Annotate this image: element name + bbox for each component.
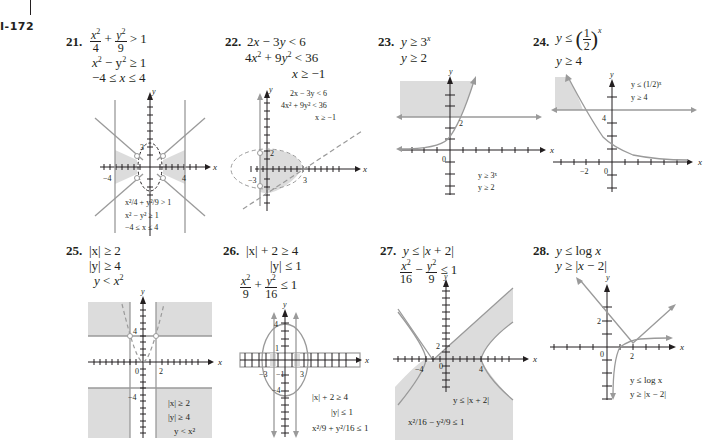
graph-24: y x 4 −2 0 y ≤ (1/2)ˣ y ≥ 4 xyxy=(553,75,703,195)
legend-line: |y| ≥ 4 xyxy=(168,412,191,422)
legend-line: x² − y² ≥ 1 xyxy=(125,211,159,220)
svg-text:y: y xyxy=(140,287,145,296)
svg-text:−4: −4 xyxy=(272,386,281,395)
svg-text:4: 4 xyxy=(133,327,137,336)
legend-line: y ≥ |x − 2| xyxy=(630,389,666,399)
svg-text:0: 0 xyxy=(600,350,604,359)
equation-line-1: y ≤ log x xyxy=(556,243,601,259)
problem-number: 21. xyxy=(66,34,82,50)
svg-text:2: 2 xyxy=(159,367,163,376)
axis-y-label: y xyxy=(444,272,448,281)
svg-text:x: x xyxy=(362,164,367,174)
svg-text:1: 1 xyxy=(275,344,279,353)
legend-line: x²/16 − y²/9 ≤ 1 xyxy=(408,417,464,427)
svg-text:0: 0 xyxy=(442,155,446,164)
legend-line: |y| ≤ 1 xyxy=(331,407,353,417)
svg-text:2: 2 xyxy=(597,317,601,326)
svg-text:2: 2 xyxy=(436,342,440,351)
graph-26: y x 4 1 −3 −1 3 −4 |x| + 2 ≥ 4 |y| ≤ 1 x… xyxy=(240,305,370,440)
svg-text:x: x xyxy=(364,355,369,365)
legend-line: y ≥ 3ˣ xyxy=(478,171,497,180)
equation-line-2: 4x2 + 9y2 < 36 xyxy=(245,50,318,66)
problem-number: 26. xyxy=(223,243,239,259)
svg-text:3: 3 xyxy=(303,176,307,185)
svg-text:x: x xyxy=(532,354,537,364)
legend-line: |x| + 2 ≥ 4 xyxy=(312,392,349,402)
svg-text:−4: −4 xyxy=(415,365,424,374)
equation-line-1: y ≥ 3x xyxy=(401,34,430,50)
equation-line-2: y ≥ 2 xyxy=(401,50,427,66)
equation-line-3: y < x2 xyxy=(94,273,123,289)
legend-line: x ≥ −1 xyxy=(315,113,336,122)
legend-line: 4x² + 9y² < 36 xyxy=(281,101,327,110)
svg-text:x: x xyxy=(679,342,684,352)
svg-text:4: 4 xyxy=(274,320,278,329)
page-number: I-172 xyxy=(0,20,34,33)
equation-line-2: x216 − y29 ≤ 1 xyxy=(400,257,457,285)
svg-text:4: 4 xyxy=(602,114,606,123)
equation-line-2: y ≥ |x − 2| xyxy=(556,258,607,274)
svg-text:−3: −3 xyxy=(248,176,257,185)
svg-text:x: x xyxy=(217,357,222,367)
legend-line: y ≤ (1/2)ˣ xyxy=(631,80,662,89)
svg-text:−4: −4 xyxy=(103,174,112,183)
graph-23: y x 2 0 y ≥ 3ˣ y ≥ 2 xyxy=(398,70,533,200)
graph-21: y x 3 −4 4 x²/4 + y²/9 > 1 x² − y² ≥ 1 −… xyxy=(85,88,215,238)
equation-line-1: |x| ≥ 2 xyxy=(89,243,121,259)
legend-line: x²/9 + y²/16 ≤ 1 xyxy=(312,423,368,433)
problem-number: 23. xyxy=(378,34,394,50)
equation-line-1: |x| + 2 ≥ 4 xyxy=(246,243,298,259)
equation-line-3: −4 ≤ x ≤ 4 xyxy=(92,70,145,86)
problem-number: 24. xyxy=(533,34,549,50)
equation-line-3: x29 + y216 ≤ 1 xyxy=(240,272,297,300)
page-rule xyxy=(30,0,31,15)
equation-line-1: 2x − 3y < 6 xyxy=(247,34,306,50)
legend-line: y ≤ log x xyxy=(630,375,663,385)
legend-line: |x| ≥ 2 xyxy=(168,398,190,408)
svg-text:2: 2 xyxy=(459,119,463,128)
svg-text:y: y xyxy=(151,87,156,96)
equation-line-2: |y| ≥ 4 xyxy=(89,258,121,274)
equation-line-1: x24 + y29 > 1 xyxy=(90,26,147,54)
svg-text:−3: −3 xyxy=(259,370,268,379)
svg-text:2: 2 xyxy=(630,352,634,361)
equation-line-3: x ≥ −1 xyxy=(292,66,325,82)
svg-text:y: y xyxy=(605,273,610,282)
legend-line: y ≤ |x + 2| xyxy=(453,395,489,405)
svg-text:2: 2 xyxy=(270,149,274,158)
svg-text:x: x xyxy=(212,162,217,172)
legend-line: 2x − 3y < 6 xyxy=(290,89,327,98)
svg-text:−1: −1 xyxy=(276,370,285,379)
svg-text:4: 4 xyxy=(182,174,186,183)
svg-text:0: 0 xyxy=(135,367,139,376)
legend-line: y < x² xyxy=(174,426,196,436)
svg-text:0: 0 xyxy=(604,167,608,176)
svg-text:y: y xyxy=(448,67,453,76)
legend-line: y ≥ 4 xyxy=(631,93,647,102)
svg-text:y: y xyxy=(609,70,614,79)
svg-text:3: 3 xyxy=(300,370,304,379)
legend-line: x²/4 + y²/9 > 1 xyxy=(125,198,171,207)
svg-text:4: 4 xyxy=(479,365,483,374)
svg-text:−2: −2 xyxy=(580,167,589,176)
equation-line-1: y ≤ (12)x xyxy=(556,26,602,52)
equation-line-2: y ≥ 4 xyxy=(556,53,582,69)
svg-text:y: y xyxy=(268,85,273,94)
problem-number: 28. xyxy=(533,243,549,259)
svg-text:−4: −4 xyxy=(128,393,137,402)
problem-number: 27. xyxy=(380,243,396,259)
graph-27: 2 −4 0 4 x y ≤ |x + 2| x²/16 − y²/9 ≤ 1 xyxy=(393,297,543,442)
equation-line-2: x2 − y2 ≥ 1 xyxy=(92,55,146,71)
problem-number: 25. xyxy=(66,243,82,259)
svg-text:0: 0 xyxy=(439,362,443,371)
legend-line: −4 ≤ x ≤ 4 xyxy=(125,223,158,232)
graph-25: y x 4 0 2 −4 |x| ≥ 2 |y| ≥ 4 y < x² xyxy=(88,292,218,440)
svg-text:y: y xyxy=(282,300,287,309)
problem-number: 22. xyxy=(225,34,241,50)
legend-line: y ≥ 2 xyxy=(478,183,494,192)
graph-22: y x 2 −3 3 2x − 3y < 6 4x² + 9y² < 36 x … xyxy=(240,86,370,216)
svg-text:3: 3 xyxy=(140,143,144,152)
svg-text:x: x xyxy=(697,157,702,167)
graph-28: y x 2 0 2 y ≤ log x y ≥ |x − 2| xyxy=(550,280,700,405)
